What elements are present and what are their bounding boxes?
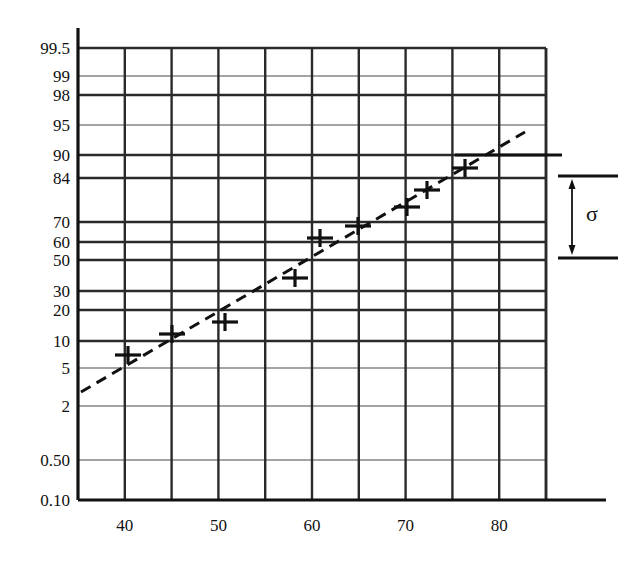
sigma-arrowhead-up xyxy=(569,179,576,189)
data-point-marker xyxy=(115,346,141,364)
data-point-marker xyxy=(212,313,238,331)
x-axis-tick-label: 40 xyxy=(116,517,133,534)
y-axis-tick-label: 2 xyxy=(62,398,71,415)
y-axis-tick-label: 95 xyxy=(53,117,70,134)
x-axis-tick-label: 60 xyxy=(304,517,321,534)
y-axis-tick-label: 20 xyxy=(53,302,70,319)
y-axis-tick-label: 70 xyxy=(53,214,70,231)
data-point-marker xyxy=(345,217,371,235)
y-axis-tick-label: 10 xyxy=(53,333,70,350)
y-axis-tick-label: 5 xyxy=(62,360,71,377)
y-axis-tick-label: 0.50 xyxy=(40,452,70,469)
y-axis-tick-label: 98 xyxy=(53,87,70,104)
data-point-marker xyxy=(414,181,440,199)
y-axis-tick-label: 99 xyxy=(53,68,70,85)
probability-plot-chart: 99.59998959084706050302010520.500.10 405… xyxy=(0,0,636,579)
plot-svg xyxy=(0,0,636,579)
fitted-trend-line xyxy=(81,132,525,392)
sigma-annotation-label: σ xyxy=(586,203,598,225)
data-point-marker xyxy=(394,198,420,216)
y-axis-tick-label: 99.5 xyxy=(40,40,70,57)
x-axis-tick-label: 80 xyxy=(491,517,508,534)
y-axis-tick-label: 50 xyxy=(53,252,70,269)
x-axis-tick-label: 50 xyxy=(210,517,227,534)
x-axis-tick-label: 70 xyxy=(397,517,414,534)
sigma-arrowhead-down xyxy=(569,245,576,255)
y-axis-tick-label: 0.10 xyxy=(40,492,70,509)
y-axis-tick-label: 90 xyxy=(53,147,70,164)
y-axis-tick-label: 30 xyxy=(53,283,70,300)
y-axis-tick-label: 84 xyxy=(53,170,70,187)
y-axis-tick-label: 60 xyxy=(53,234,70,251)
